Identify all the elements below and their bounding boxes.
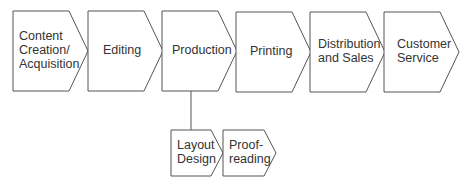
label-line: Customer xyxy=(397,37,451,51)
step-production-label: Production xyxy=(172,43,232,57)
step-layout-label: LayoutDesign xyxy=(177,138,216,166)
label-line: reading xyxy=(229,152,271,166)
label-line: Content xyxy=(19,29,79,43)
step-proofreading-label: Proof-reading xyxy=(229,138,271,166)
label-line: Production xyxy=(172,43,232,57)
label-line: Printing xyxy=(250,44,292,58)
label-line: Layout xyxy=(177,138,216,152)
label-line: Acquisition xyxy=(19,57,79,71)
step-distribution-label: Distributionand Sales xyxy=(318,37,381,65)
step-customer-label: CustomerService xyxy=(397,37,451,65)
step-editing-label: Editing xyxy=(103,43,141,57)
step-content-label: ContentCreation/Acquisition xyxy=(19,29,79,71)
label-line: Proof- xyxy=(229,138,271,152)
label-line: Service xyxy=(397,51,451,65)
label-line: Distribution xyxy=(318,37,381,51)
label-line: Editing xyxy=(103,43,141,57)
label-line: Creation/ xyxy=(19,43,79,57)
label-line: Design xyxy=(177,152,216,166)
label-line: and Sales xyxy=(318,51,381,65)
step-printing-label: Printing xyxy=(250,44,292,58)
